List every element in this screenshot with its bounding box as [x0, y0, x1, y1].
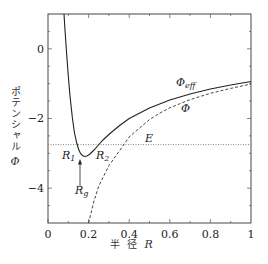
- y-axis-label-text: ポテンシャル: [8, 86, 20, 152]
- svg-text:0.8: 0.8: [202, 228, 220, 241]
- phi-eff-curve: [64, 14, 251, 157]
- potential-chart: Φeff Φ E R1 R2 Rg 0 0.2 0.4 0.6 0.8 1 0 …: [0, 0, 268, 264]
- rg-arrowhead-icon: [78, 159, 82, 165]
- phi-curve: [89, 84, 251, 223]
- x-axis-label-text: 半 径: [110, 239, 139, 250]
- x-axis-label: 半 径 R: [110, 236, 155, 251]
- phi-label: Φ: [181, 102, 190, 115]
- svg-text:−2: −2: [28, 112, 44, 125]
- x-axis-label-symbol: R: [144, 238, 154, 251]
- svg-text:−4: −4: [28, 182, 44, 195]
- y-tick-labels: 0 −2 −4: [28, 43, 44, 196]
- y-axis-label: ポテンシャル Φ: [8, 86, 22, 168]
- svg-text:0.6: 0.6: [161, 228, 179, 241]
- energy-label: E: [144, 132, 153, 145]
- svg-text:0: 0: [37, 43, 44, 56]
- y-ticks: [48, 31, 251, 205]
- svg-text:0: 0: [45, 228, 52, 241]
- svg-text:1: 1: [248, 228, 255, 241]
- r1-label: R1: [61, 149, 75, 163]
- r2-label: R2: [95, 149, 109, 163]
- svg-text:0.2: 0.2: [80, 228, 98, 241]
- y-axis-label-symbol: Φ: [8, 156, 22, 168]
- rg-label: Rg: [74, 184, 88, 198]
- phi-eff-label: Φeff: [176, 76, 197, 90]
